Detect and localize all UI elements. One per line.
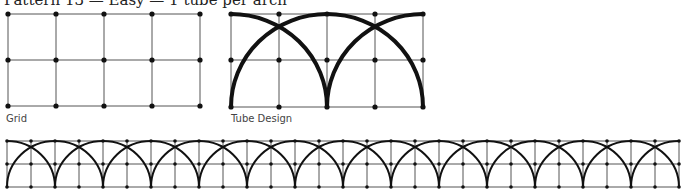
tube-grid-dot — [324, 57, 329, 62]
repeat-grid-dot — [509, 162, 513, 166]
grid-dot — [5, 57, 10, 62]
tube-grid-dot — [324, 104, 329, 109]
tube-grid-dot — [276, 57, 281, 62]
repeat-grid-dot — [461, 162, 465, 166]
repeat-grid-dot — [389, 162, 393, 166]
repeat-grid-dot — [221, 139, 225, 143]
repeat-grid-dot — [173, 185, 177, 189]
repeat-grid-dot — [413, 185, 417, 189]
repeat-grid-dot — [245, 139, 249, 143]
grid-dot — [197, 103, 202, 108]
repeat-grid-dot — [149, 185, 153, 189]
repeat-grid-dot — [557, 162, 561, 166]
repeat-grid-dot — [77, 162, 81, 166]
grid-dot — [101, 57, 106, 62]
repeat-grid-dot — [221, 185, 225, 189]
tube-grid-dot — [324, 11, 329, 16]
repeat-grid-dot — [221, 162, 225, 166]
grid-dot — [101, 103, 106, 108]
repeat-grid-dot — [101, 162, 105, 166]
repeat-grid-dot — [341, 139, 345, 143]
repeat-grid-dot — [677, 162, 681, 166]
repeat-grid-dot — [581, 162, 585, 166]
repeat-grid-dot — [29, 139, 33, 143]
grid-dot — [197, 57, 202, 62]
repeat-grid-dot — [677, 139, 681, 143]
repeat-grid-dot — [29, 185, 33, 189]
repeat-grid-dot — [677, 185, 681, 189]
tube-grid-dot — [276, 11, 281, 16]
tube-grid-dot — [420, 104, 425, 109]
pattern-diagrams — [0, 0, 682, 193]
repeat-grid-dot — [461, 139, 465, 143]
tube-grid-dot — [276, 104, 281, 109]
repeat-grid-dot — [437, 162, 441, 166]
repeat-grid-dot — [53, 139, 57, 143]
repeat-grid-dot — [533, 185, 537, 189]
grid-dot — [149, 103, 154, 108]
repeat-grid-dot — [149, 139, 153, 143]
grid-dot — [53, 57, 58, 62]
repeat-grid-dot — [509, 185, 513, 189]
repeat-grid-dot — [653, 162, 657, 166]
grid-dot — [149, 11, 154, 16]
grid-dot — [101, 11, 106, 16]
repeat-grid-dot — [53, 185, 57, 189]
repeat-grid-dot — [581, 185, 585, 189]
repeat-grid-dot — [629, 162, 633, 166]
repeat-grid-dot — [557, 139, 561, 143]
repeat-grid-dot — [269, 139, 273, 143]
repeat-grid-dot — [149, 162, 153, 166]
tube-grid-dot — [372, 104, 377, 109]
grid-dot — [5, 103, 10, 108]
repeat-grid-dot — [5, 162, 9, 166]
repeat-grid-dot — [629, 185, 633, 189]
repeat-grid-dot — [245, 162, 249, 166]
repeat-grid-dot — [365, 185, 369, 189]
repeat-grid-dot — [485, 162, 489, 166]
tube-design-caption: Tube Design — [231, 113, 292, 124]
repeat-grid-dot — [53, 162, 57, 166]
repeat-grid-dot — [77, 139, 81, 143]
repeat-grid-dot — [389, 185, 393, 189]
repeat-grid-dot — [365, 162, 369, 166]
repeat-grid-dot — [557, 185, 561, 189]
repeat-grid-dot — [605, 139, 609, 143]
repeat-grid-dot — [77, 185, 81, 189]
tube-grid-dot — [372, 57, 377, 62]
repeat-grid-dot — [5, 185, 9, 189]
repeat-grid-dot — [5, 139, 9, 143]
repeat-grid-dot — [509, 139, 513, 143]
repeat-grid-dot — [365, 139, 369, 143]
grid-dot — [197, 11, 202, 16]
repeat-grid-dot — [653, 139, 657, 143]
repeat-grid-dot — [173, 162, 177, 166]
grid-caption: Grid — [6, 113, 27, 124]
repeat-grid-dot — [413, 162, 417, 166]
repeat-grid-dot — [317, 185, 321, 189]
repeat-grid-dot — [317, 162, 321, 166]
repeat-grid-dot — [437, 185, 441, 189]
repeat-grid-dot — [533, 139, 537, 143]
repeat-grid-dot — [293, 139, 297, 143]
tube-grid-dot — [228, 11, 233, 16]
repeat-grid-dot — [125, 185, 129, 189]
repeat-grid-dot — [197, 162, 201, 166]
repeat-grid-dot — [413, 139, 417, 143]
repeat-grid-dot — [245, 185, 249, 189]
repeat-grid-dot — [197, 139, 201, 143]
repeat-grid-dot — [125, 162, 129, 166]
repeat-grid-dot — [629, 139, 633, 143]
repeat-grid-dot — [293, 162, 297, 166]
repeat-grid-dot — [269, 162, 273, 166]
grid-dot — [5, 11, 10, 16]
repeat-grid-dot — [317, 139, 321, 143]
tube-grid-dot — [372, 11, 377, 16]
tube-grid-dot — [228, 104, 233, 109]
repeat-grid-dot — [197, 185, 201, 189]
repeat-grid-dot — [389, 139, 393, 143]
repeat-grid-dot — [605, 162, 609, 166]
repeat-grid-dot — [533, 162, 537, 166]
repeat-grid-dot — [581, 139, 585, 143]
tube-grid-dot — [228, 57, 233, 62]
